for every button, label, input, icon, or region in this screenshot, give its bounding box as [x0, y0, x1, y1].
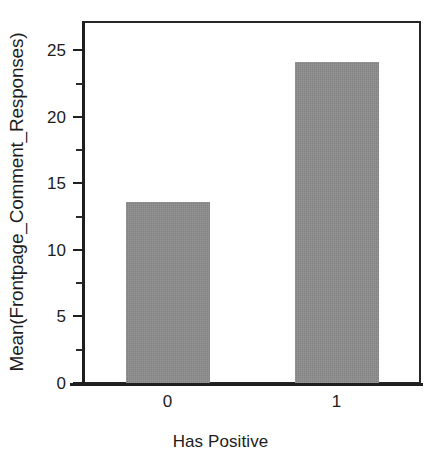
y-axis-major-tick — [73, 249, 83, 251]
x-axis-tick-label: 0 — [138, 392, 198, 412]
y-axis-major-tick — [73, 116, 83, 118]
y-axis-major-tick — [73, 382, 83, 384]
y-axis-tick-label: 25 — [47, 42, 66, 59]
y-axis-tick-label: 5 — [57, 308, 66, 325]
bar — [295, 62, 379, 383]
y-axis-tick-label: 15 — [47, 175, 66, 192]
x-axis-line — [70, 383, 423, 386]
y-axis-line — [82, 21, 85, 385]
x-axis-tick-label: 1 — [307, 392, 367, 412]
y-axis-minor-tick — [76, 149, 83, 151]
y-axis-tick-label: 0 — [57, 375, 66, 392]
y-axis-minor-tick — [76, 282, 83, 284]
x-axis-title: Has Positive — [0, 432, 441, 452]
bar-chart: Mean(Frontpage_Comment_Responses) 051015… — [0, 0, 441, 472]
y-axis-minor-tick — [76, 83, 83, 85]
y-axis-major-tick — [73, 49, 83, 51]
y-axis-title: Mean(Frontpage_Comment_Responses) — [0, 7, 34, 397]
bar — [126, 202, 210, 383]
y-axis-tick-label: 10 — [47, 241, 66, 258]
y-axis-minor-tick — [76, 216, 83, 218]
y-axis-major-tick — [73, 182, 83, 184]
y-axis-major-tick — [73, 315, 83, 317]
y-axis-minor-tick — [76, 349, 83, 351]
y-axis-tick-label: 20 — [47, 108, 66, 125]
